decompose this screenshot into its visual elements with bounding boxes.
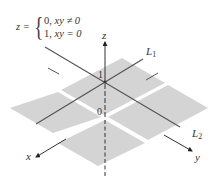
x-axis-back <box>48 68 59 74</box>
brace-glyph: { <box>34 13 43 41</box>
label-L2: L2 <box>192 128 202 141</box>
y-axis <box>164 135 192 151</box>
label-L1: L1 <box>146 46 156 59</box>
y-axis-label: y <box>195 152 200 163</box>
surface-plot <box>0 0 214 182</box>
plane-z0 <box>10 58 208 166</box>
equation-case-2: 1, xy = 0 <box>44 28 81 39</box>
intersection-point <box>104 81 107 84</box>
origin-label: 0 <box>97 107 102 117</box>
equation-lhs: z = <box>16 21 30 32</box>
z-axis-label: z <box>102 30 106 41</box>
equation-case-1: 0, xy ≠ 0 <box>44 15 80 26</box>
x-axis <box>36 139 66 157</box>
x-axis-label: x <box>26 151 31 162</box>
z-tick-one: 1 <box>98 70 103 80</box>
